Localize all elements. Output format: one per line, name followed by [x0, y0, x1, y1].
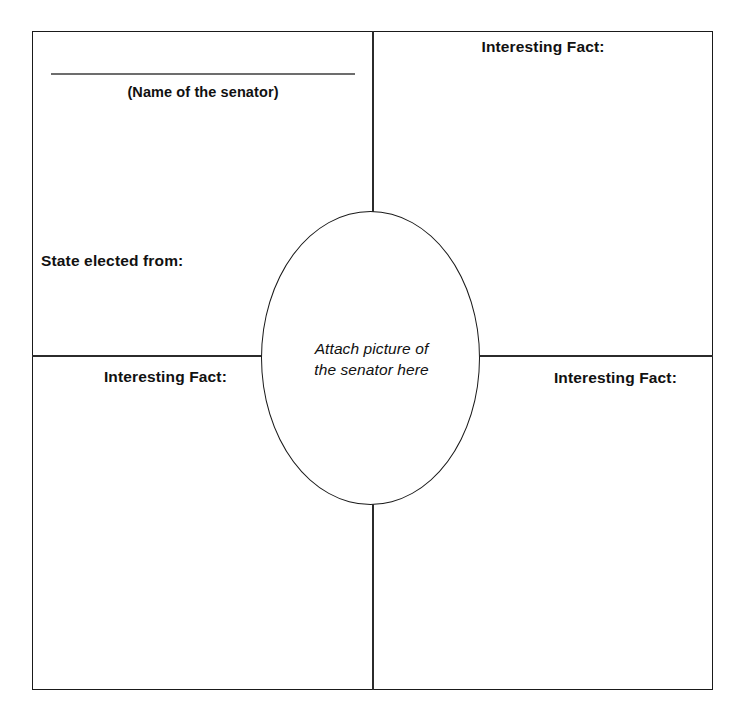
label-state-elected-from: State elected from:	[41, 252, 183, 270]
label-interesting-fact-bottom-left: Interesting Fact:	[32, 368, 227, 386]
label-interesting-fact-top-right: Interesting Fact:	[373, 38, 713, 56]
photo-instruction-line-2: the senator here	[314, 359, 428, 380]
senator-name-write-in-line[interactable]	[51, 73, 355, 75]
senator-name-caption: (Name of the senator)	[51, 84, 355, 100]
photo-instruction-line-1: Attach picture of	[315, 338, 429, 359]
divider-vertical-bottom	[372, 504, 374, 690]
divider-horizontal-left	[32, 355, 262, 357]
photo-placeholder-instructions: Attach picture of the senator here	[262, 212, 481, 506]
divider-vertical-top	[372, 31, 374, 213]
senator-graphic-organizer: (Name of the senator) Interesting Fact: …	[0, 0, 742, 714]
divider-horizontal-right	[480, 355, 713, 357]
senator-photo-placeholder-ellipse[interactable]: Attach picture of the senator here	[261, 211, 480, 505]
